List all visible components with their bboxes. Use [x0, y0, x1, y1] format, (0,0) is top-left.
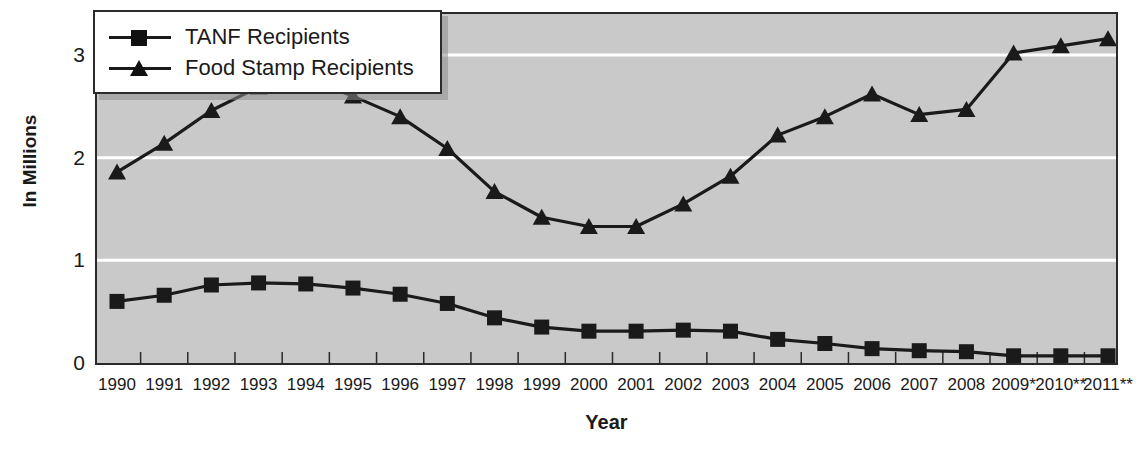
data-point-marker: [816, 108, 834, 124]
y-axis-title: In Millions: [19, 61, 41, 261]
x-axis-tick-labels: 1990199119921993199419951996199719981999…: [95, 376, 1118, 402]
data-point-marker: [251, 275, 266, 290]
data-point-marker: [959, 344, 974, 359]
data-point-marker: [108, 164, 126, 180]
data-point-marker: [440, 296, 455, 311]
data-point-marker: [912, 343, 927, 358]
x-tick-label: 2004: [759, 376, 797, 393]
data-point-marker: [534, 320, 549, 335]
data-point-marker: [865, 341, 880, 356]
x-tick-label: 2006: [853, 376, 891, 393]
data-point-marker: [581, 324, 596, 339]
x-tick-label: 2003: [712, 376, 750, 393]
y-tick-label: 1: [59, 249, 85, 270]
x-tick-label: 2002: [664, 376, 702, 393]
data-point-marker: [345, 281, 360, 296]
legend-item-food-stamp: Food Stamp Recipients: [109, 52, 414, 83]
data-point-marker: [674, 195, 692, 211]
data-point-marker: [204, 277, 219, 292]
legend-label-tanf: TANF Recipients: [185, 26, 350, 48]
legend-item-tanf: TANF Recipients: [109, 21, 414, 52]
line-chart: In Millions 0123 TANF Recipients Food St…: [0, 0, 1145, 467]
data-point-marker: [817, 336, 832, 351]
x-axis-tick-marks: [141, 352, 1085, 363]
triangle-marker-icon: [109, 57, 171, 79]
x-tick-label: 2008: [948, 376, 986, 393]
data-point-marker: [1053, 348, 1068, 363]
data-point-marker: [110, 294, 125, 309]
data-point-marker: [391, 108, 409, 124]
y-tick-label: 2: [59, 147, 85, 168]
square-marker-icon: [109, 26, 171, 48]
y-tick-label: 0: [59, 352, 85, 373]
x-tick-label: 1993: [240, 376, 278, 393]
data-point-marker: [298, 276, 313, 291]
x-tick-label: 1999: [523, 376, 561, 393]
data-point-marker: [770, 332, 785, 347]
x-tick-label: 2010**: [1035, 376, 1086, 393]
legend-label-food-stamp: Food Stamp Recipients: [185, 57, 414, 79]
data-point-marker: [676, 323, 691, 338]
data-point-marker: [723, 324, 738, 339]
data-point-marker: [1101, 348, 1116, 363]
y-tick-label: 3: [59, 44, 85, 65]
data-point-marker: [1006, 348, 1021, 363]
x-tick-label: 1995: [334, 376, 372, 393]
data-point-marker: [487, 310, 502, 325]
data-point-marker: [157, 288, 172, 303]
x-tick-label: 1997: [428, 376, 466, 393]
x-tick-label: 2007: [900, 376, 938, 393]
x-tick-label: 1994: [287, 376, 325, 393]
data-point-marker: [769, 127, 787, 143]
legend: TANF Recipients Food Stamp Recipients: [93, 10, 442, 94]
data-point-marker: [629, 324, 644, 339]
x-tick-label: 1991: [145, 376, 183, 393]
data-point-marker: [863, 86, 881, 102]
x-tick-label: 2000: [570, 376, 608, 393]
data-point-marker: [533, 209, 551, 225]
x-tick-label: 1996: [381, 376, 419, 393]
y-axis-tick-labels: 0123: [55, 0, 85, 467]
data-point-marker: [202, 102, 220, 118]
x-tick-label: 1990: [98, 376, 136, 393]
x-tick-label: 2005: [806, 376, 844, 393]
x-tick-label: 2011**: [1083, 376, 1133, 393]
x-axis-title: Year: [95, 411, 1118, 434]
x-tick-label: 1992: [192, 376, 230, 393]
data-point-marker: [393, 287, 408, 302]
x-tick-label: 2001: [617, 376, 655, 393]
x-tick-label: 2009*: [991, 376, 1035, 393]
x-tick-label: 1998: [476, 376, 514, 393]
